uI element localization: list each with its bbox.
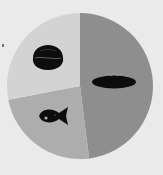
pie-chart: Bread Fish Nuts xyxy=(0,0,163,175)
pie-svg xyxy=(0,0,163,175)
scan-artifact xyxy=(2,44,4,47)
walnut-icon xyxy=(33,45,63,70)
